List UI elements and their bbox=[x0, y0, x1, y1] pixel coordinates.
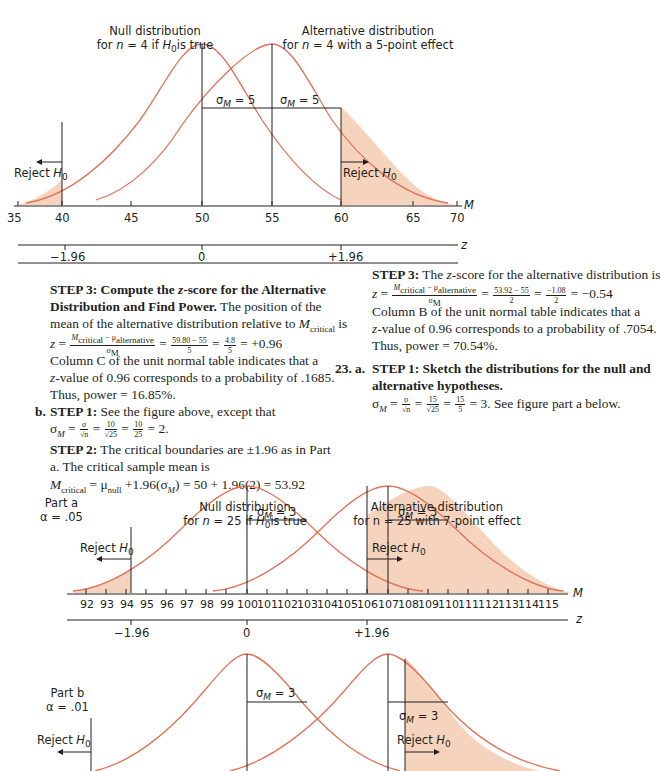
fig2-part-label: Part a bbox=[40, 496, 83, 510]
q23-step1: STEP 1: Sketch the distributions for the… bbox=[372, 360, 651, 377]
fig2-z-axis-label: z bbox=[576, 612, 582, 626]
figure-3-part-b bbox=[0, 645, 642, 771]
fig2-m-axis-label: M bbox=[573, 586, 583, 600]
shade-left-tail bbox=[18, 180, 62, 205]
fig3-reject-left: Reject H0 bbox=[37, 733, 91, 749]
fig2-sigma-left: σM = 3 bbox=[257, 505, 296, 521]
right-power-line: Thus, power = 70.54%. bbox=[372, 337, 498, 354]
fig2-sigma-right: σM = 3 bbox=[398, 505, 437, 521]
fig2-alpha-label: α = .05 bbox=[40, 510, 83, 524]
left-b-sigma-eq: σM = σ√n = 10√25 = 1025 = 2. bbox=[50, 420, 169, 443]
left-step3-heading-2: Distribution and Find Power. The positio… bbox=[50, 298, 322, 315]
fig1-alt-label: Alternative distribution bbox=[268, 24, 468, 38]
fig1-sigma-right: σM = 5 bbox=[280, 93, 319, 109]
left-power-line: Thus, power = 16.85%. bbox=[50, 386, 176, 403]
fig1-reject-left: Reject H0 bbox=[14, 166, 68, 182]
left-col-c-line: Column C of the unit normal table indica… bbox=[50, 352, 318, 369]
fig1-sigma-left: σM = 5 bbox=[216, 93, 255, 109]
fig1-z-axis-label: z bbox=[461, 238, 467, 252]
shade-right-tail bbox=[341, 107, 457, 205]
fig2-reject-left: Reject H0 bbox=[80, 541, 134, 557]
left-step3-heading: STEP 3: Compute the z-score for the Alte… bbox=[50, 281, 326, 298]
left-b-step2-2: a. The critical sample mean is bbox=[50, 458, 210, 475]
fig1-reject-right: Reject H0 bbox=[343, 166, 397, 182]
fig3-part-label: Part b bbox=[46, 686, 89, 700]
q23-sigma-eq: σM = σ√n = 15√25 = 155 = 3. See figure p… bbox=[372, 395, 621, 418]
fig1-null-sublabel: for n = 4 if H0is true bbox=[60, 38, 250, 56]
fig3-reject-right: Reject H0 bbox=[397, 733, 451, 749]
q23-step1-2: alternative hypotheses. bbox=[372, 377, 503, 394]
fig1-m-axis-label: M bbox=[464, 198, 474, 212]
right-zvalue-line: z-value of 0.96 corresponds to a probabi… bbox=[372, 320, 657, 337]
right-col-b-line: Column B of the unit normal table indica… bbox=[372, 303, 640, 320]
left-b-step2: STEP 2: The critical boundaries are ±1.9… bbox=[50, 441, 331, 458]
fig2-null-label: Null distribution bbox=[140, 500, 350, 514]
fig1-null-label: Null distribution bbox=[60, 24, 250, 38]
left-zvalue-line: z-value of 0.96 corresponds to a probabi… bbox=[50, 369, 335, 386]
left-part-b-label: b. bbox=[35, 403, 46, 420]
fig3-alpha-label: α = .01 bbox=[46, 700, 89, 714]
q23-label: 23. a. bbox=[335, 360, 365, 377]
fig2-null-sublabel: for n = 25 if H0is true bbox=[140, 514, 350, 532]
fig3-sigma-left: σM = 3 bbox=[256, 686, 295, 702]
fig2-reject-right: Reject H0 bbox=[372, 541, 426, 557]
left-b-step1: STEP 1: See the figure above, except tha… bbox=[50, 403, 275, 420]
fig1-alt-sublabel: for n = 4 with a 5-point effect bbox=[268, 38, 468, 52]
right-step3: STEP 3: The z-score for the alternative … bbox=[372, 266, 660, 283]
fig3-sigma-right: σM = 3 bbox=[399, 709, 438, 725]
